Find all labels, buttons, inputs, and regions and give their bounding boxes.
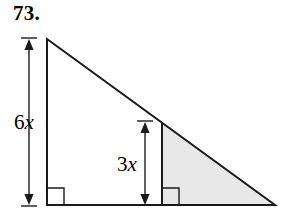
- dimension-arrow-3x: [137, 121, 153, 205]
- dimension-label-3x-variable: x: [128, 152, 137, 176]
- right-angle-marker-large: [47, 188, 64, 205]
- dimension-label-3x: 3x: [117, 153, 137, 175]
- dimension-label-6x-coefficient: 6: [14, 110, 25, 134]
- dimension-label-6x-variable: x: [25, 110, 34, 134]
- dimension-label-3x-coefficient: 3: [117, 152, 128, 176]
- geometry-diagram: [0, 0, 287, 210]
- dimension-label-6x: 6x: [14, 111, 34, 133]
- figure-container: 73. 6x 3x: [0, 0, 287, 210]
